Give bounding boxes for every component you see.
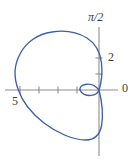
axis-label-zero: 0	[122, 82, 128, 94]
axis-label-pi-over-2: π/2	[88, 11, 103, 23]
axis-tick-label-5: 5	[12, 95, 18, 107]
limacon-curve	[15, 31, 102, 140]
limacon-outer-lobe	[15, 31, 102, 140]
plot-canvas	[0, 0, 134, 163]
polar-plot-figure: π/2 2 0 5	[0, 0, 134, 163]
axis-tick-label-2: 2	[108, 51, 114, 63]
